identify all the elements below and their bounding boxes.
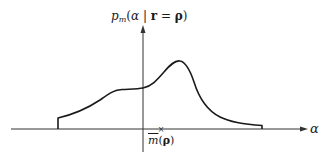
density-curve (58, 61, 262, 129)
label-equals: = (157, 9, 175, 23)
mean-label-close: ) (170, 134, 174, 147)
mean-label: m(ρ) (148, 135, 174, 146)
x-axis-label: α (310, 122, 319, 135)
mean-label-rho: ρ (163, 134, 170, 147)
label-bar: | (139, 9, 151, 23)
label-alpha: α (131, 9, 139, 23)
label-p: p (111, 9, 119, 23)
label-close-paren: ) (183, 9, 188, 23)
mean-label-m: m (148, 134, 158, 147)
y-axis-arrow-icon (141, 25, 146, 33)
label-rho: ρ (175, 9, 183, 23)
mean-marker-icon: × (158, 125, 165, 134)
x-axis-arrow-icon (300, 127, 308, 132)
y-axis-label: pm(α | r = ρ) (111, 10, 187, 24)
